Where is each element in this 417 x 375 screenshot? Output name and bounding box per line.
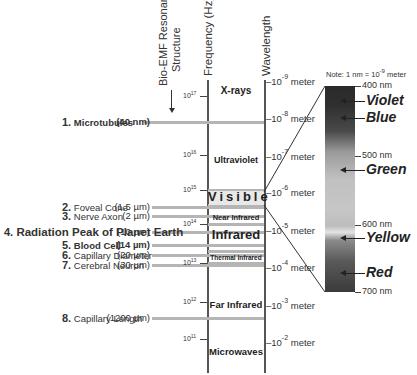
nm-tick — [355, 292, 361, 293]
nm-scale-label: 600 nm — [362, 219, 392, 229]
color-pointer-arrow — [345, 101, 365, 102]
color-pointer-arrow — [345, 118, 365, 119]
color-pointer-arrow — [345, 273, 365, 274]
region-label-microwaves: Microwaves — [208, 346, 264, 357]
color-label-yellow: Yellow — [366, 229, 410, 245]
color-label-violet: Violet — [366, 92, 404, 108]
color-label-green: Green — [366, 161, 406, 177]
region-label-thermal-infrared: Thermal Infrared — [208, 254, 264, 261]
nm-note: Note: 1 nm = 10-9 meter — [326, 68, 406, 79]
region-label-far-infrared: Far Infrared — [208, 299, 264, 310]
region-label-near-infrared: Near Infrared — [208, 213, 264, 222]
region-label-x-rays: X-rays — [208, 85, 264, 96]
nm-scale-label: 700 nm — [362, 286, 392, 296]
nm-tick — [355, 86, 361, 87]
region-label-ultraviolet: Ultraviolet — [208, 155, 264, 165]
color-pointer-arrow — [345, 170, 365, 171]
color-label-blue: Blue — [366, 109, 396, 125]
nm-tick — [355, 156, 361, 157]
region-label-infrared: Infrared — [208, 227, 264, 242]
color-label-red: Red — [366, 264, 392, 280]
nm-scale-label: 400 nm — [362, 80, 392, 90]
nm-scale-label: 500 nm — [362, 150, 392, 160]
region-label-visible: Visible — [208, 189, 264, 204]
nm-tick — [355, 225, 361, 226]
color-pointer-arrow — [345, 238, 365, 239]
